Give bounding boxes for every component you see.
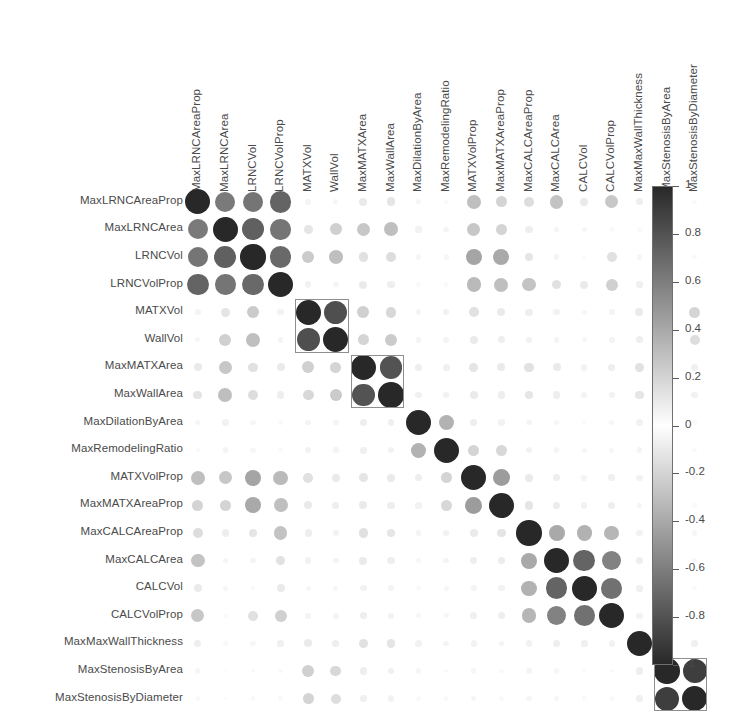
- matrix-cell-10-4: [303, 473, 313, 483]
- matrix-cell-1-15: [610, 227, 614, 231]
- matrix-cell-3-1: [215, 274, 235, 294]
- matrix-cell-18-12: [526, 696, 531, 701]
- matrix-cell-11-7: [387, 502, 394, 509]
- matrix-cell-18-14: [582, 696, 586, 700]
- matrix-cell-18-13: [554, 696, 559, 701]
- matrix-cell-16-10: [471, 640, 477, 646]
- row-label-3: LRNCVolProp: [110, 277, 183, 289]
- matrix-cell-9-7: [388, 447, 394, 453]
- matrix-cell-6-15: [608, 364, 615, 371]
- matrix-cell-2-6: [359, 252, 369, 262]
- matrix-cell-11-5: [332, 502, 339, 509]
- matrix-cell-5-0: [195, 337, 200, 342]
- matrix-cell-8-3: [278, 420, 282, 424]
- matrix-cell-14-11: [498, 585, 504, 591]
- matrix-cell-2-14: [582, 255, 586, 259]
- matrix-cell-6-8: [415, 364, 422, 371]
- matrix-cell-3-15: [606, 279, 618, 291]
- matrix-cell-0-5: [333, 199, 338, 204]
- colorbar-ticklabel-2: 0.6: [685, 274, 701, 286]
- matrix-cell-8-15: [609, 420, 614, 425]
- matrix-cell-16-14: [581, 640, 588, 647]
- matrix-cell-8-12: [526, 420, 532, 426]
- matrix-cell-15-9: [444, 613, 449, 618]
- matrix-cell-16-2: [250, 641, 255, 646]
- colorbar-tick-6: [673, 473, 679, 474]
- matrix-cell-3-2: [242, 274, 263, 295]
- matrix-cell-16-4: [304, 639, 312, 647]
- matrix-cell-2-1: [214, 246, 236, 268]
- colorbar-ticklabel-9: -0.8: [685, 609, 705, 621]
- matrix-cell-9-10: [468, 445, 479, 456]
- row-label-2: LRNCVol: [135, 249, 183, 261]
- matrix-cell-14-15: [601, 578, 622, 599]
- matrix-cell-1-13: [554, 227, 560, 233]
- matrix-cell-14-16: [636, 585, 643, 592]
- matrix-cell-10-1: [219, 471, 232, 484]
- matrix-cell-15-0: [191, 609, 204, 622]
- matrix-cell-14-6: [360, 585, 366, 591]
- column-label-17: MaxStenosisByArea: [660, 87, 672, 192]
- matrix-cell-1-4: [304, 225, 313, 234]
- matrix-cell-0-1: [215, 192, 235, 212]
- matrix-cell-18-11: [499, 696, 503, 700]
- matrix-cell-5-12: [526, 337, 532, 343]
- matrix-cell-9-6: [360, 447, 367, 454]
- matrix-cell-13-14: [573, 550, 595, 572]
- matrix-cell-14-4: [306, 586, 311, 591]
- matrix-cell-18-15: [610, 696, 614, 700]
- matrix-cell-13-2: [250, 558, 256, 564]
- colorbar-ticklabel-4: 0.2: [685, 370, 701, 382]
- matrix-cell-17-8: [416, 668, 421, 673]
- matrix-cell-10-16: [636, 475, 642, 481]
- colorbar-ticklabel-10: -1: [685, 657, 695, 669]
- matrix-cell-17-12: [526, 668, 532, 674]
- colorbar-tick-5: [673, 426, 679, 427]
- matrix-cell-7-11: [498, 391, 505, 398]
- matrix-cell-1-11: [496, 224, 507, 235]
- matrix-cell-8-18: [692, 420, 696, 424]
- matrix-cell-1-0: [188, 219, 208, 239]
- matrix-cell-3-3: [268, 272, 293, 297]
- matrix-cell-11-16: [637, 503, 643, 509]
- matrix-cell-13-5: [333, 558, 339, 564]
- row-label-9: MaxRemodelingRatio: [71, 442, 183, 454]
- matrix-cell-14-5: [333, 586, 338, 591]
- matrix-cell-11-4: [304, 501, 312, 509]
- matrix-cell-8-14: [582, 420, 586, 424]
- matrix-cell-0-2: [243, 192, 263, 212]
- matrix-cell-11-3: [274, 498, 288, 512]
- matrix-cell-9-9: [434, 438, 459, 463]
- matrix-cell-6-9: [443, 364, 450, 371]
- matrix-cell-10-6: [359, 473, 368, 482]
- matrix-cell-0-4: [305, 199, 311, 205]
- matrix-cell-0-3: [270, 191, 292, 213]
- matrix-cell-14-7: [388, 585, 394, 591]
- matrix-cell-1-2: [242, 218, 264, 240]
- matrix-cell-11-15: [608, 502, 615, 509]
- column-label-14: CALCVol: [577, 145, 589, 192]
- matrix-cell-1-16: [637, 227, 641, 231]
- matrix-cell-1-14: [582, 227, 587, 232]
- row-label-14: CALCVol: [136, 580, 183, 592]
- matrix-cell-8-1: [222, 419, 228, 425]
- matrix-cell-7-0: [193, 391, 202, 400]
- matrix-cell-7-18: [691, 392, 697, 398]
- matrix-cell-6-12: [524, 363, 534, 373]
- matrix-cell-0-18: [692, 200, 696, 204]
- colorbar-ticklabel-1: 0.8: [685, 226, 701, 238]
- matrix-cell-12-2: [249, 529, 258, 538]
- matrix-cell-2-9: [444, 254, 449, 259]
- row-label-7: MaxWallArea: [114, 387, 183, 399]
- matrix-cell-17-4: [302, 665, 314, 677]
- matrix-cell-8-2: [250, 420, 255, 425]
- matrix-cell-4-18: [689, 307, 700, 318]
- row-label-18: MaxStenosisByDiameter: [55, 691, 183, 703]
- row-label-6: MaxMATXArea: [105, 359, 183, 371]
- matrix-cell-0-7: [387, 197, 396, 206]
- matrix-cell-10-3: [273, 471, 287, 485]
- matrix-cell-0-11: [496, 196, 507, 207]
- matrix-cell-7-14: [581, 392, 587, 398]
- matrix-cell-8-10: [470, 419, 477, 426]
- matrix-cell-9-4: [305, 447, 311, 453]
